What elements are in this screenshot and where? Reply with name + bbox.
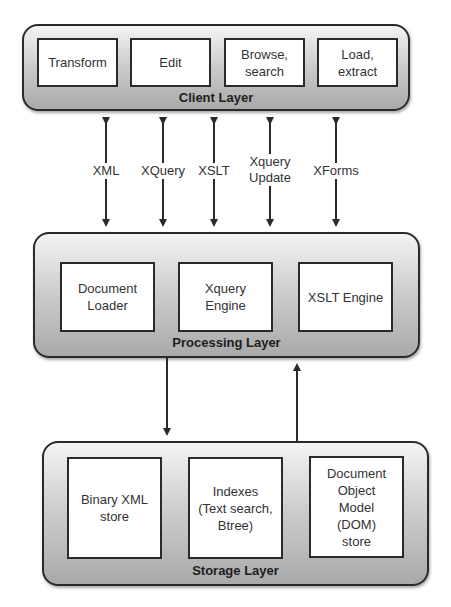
client-load-extract-box: Load, extract [317, 38, 398, 87]
storage-layer-title: Storage Layer [44, 563, 427, 578]
client-edit-box: Edit [130, 38, 211, 87]
xml-label: XML [93, 163, 120, 179]
storage-indexes-box: Indexes (Text search, Btree) [188, 457, 283, 559]
processing-xslt-engine-box: XSLT Engine [298, 262, 393, 332]
client-layer: Transform Edit Browse, search Load, extr… [22, 24, 410, 111]
storage-layer: Binary XML store Indexes (Text search, B… [42, 441, 429, 586]
storage-dom-store-box: Document Object Model (DOM) store [309, 456, 404, 558]
processing-document-loader-box: Document Loader [60, 262, 155, 332]
xslt-label: XSLT [198, 163, 230, 179]
processing-xquery-engine-box: Xquery Engine [178, 262, 273, 332]
client-layer-title: Client Layer [24, 90, 408, 105]
processing-layer-title: Processing Layer [35, 335, 418, 350]
client-browse-search-box: Browse, search [224, 38, 305, 87]
storage-binary-xml-box: Binary XML store [67, 457, 162, 559]
xquery-label: XQuery [141, 163, 185, 179]
client-transform-box: Transform [37, 38, 118, 87]
processing-layer: Document Loader Xquery Engine XSLT Engin… [33, 232, 420, 358]
xquery-update-label: Xquery Update [249, 154, 291, 186]
xforms-label: XForms [313, 163, 359, 179]
